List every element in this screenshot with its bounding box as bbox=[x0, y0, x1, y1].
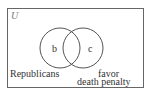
death-penalty-circle bbox=[63, 28, 103, 68]
universe-label: U bbox=[11, 11, 18, 21]
region-c-label: c bbox=[88, 44, 92, 54]
region-b-label: b bbox=[52, 44, 57, 54]
republicans-circle bbox=[40, 28, 80, 68]
republicans-label: Republicans bbox=[10, 69, 59, 79]
death-penalty-label-line2: death penalty bbox=[77, 77, 131, 87]
